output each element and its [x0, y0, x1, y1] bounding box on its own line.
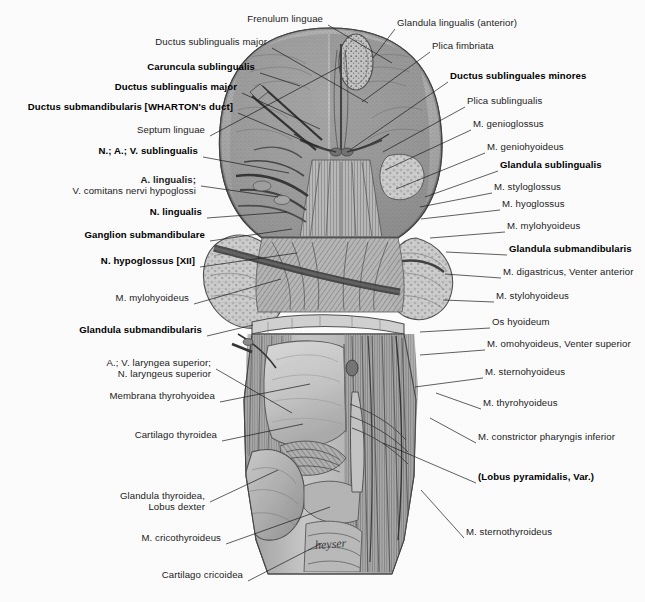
label-a-v-laryngea-n-laryngeus-superior-line-2: N. laryngeus superior: [107, 369, 211, 380]
label-glandula-thyroidea-lobus-dexter: Glandula thyroidea,Lobus dexter: [120, 491, 205, 512]
label-a-lingualis-v-comitans-line-2: V. comitans nervi hypoglossi: [73, 186, 196, 197]
label-ductus-sublinguales-minores: Ductus sublinguales minores: [450, 71, 586, 82]
label-ductus-sublingualis-major-plain: Ductus sublingualis major: [155, 37, 267, 48]
label-plica-sublingualis: Plica sublingualis: [467, 96, 542, 107]
label-glandula-lingualis-anterior: Glandula lingualis (anterior): [397, 18, 517, 29]
label-m-constrictor-pharyngis-inferior: M. constrictor pharyngis inferior: [478, 432, 615, 443]
label-m-cricothyroideus: M. cricothyroideus: [141, 533, 221, 544]
label-m-mylohyoideus-right: M. mylohyoideus: [507, 221, 580, 232]
label-m-sternohyoideus: M. sternohyoideus: [485, 367, 565, 378]
label-a-lingualis-v-comitans: A. lingualis;V. comitans nervi hypogloss…: [73, 175, 196, 196]
label-m-geniohyoideus: M. geniohyoideus: [487, 142, 564, 153]
label-a-v-laryngea-n-laryngeus-superior: A.; V. laryngea superior;N. laryngeus su…: [107, 358, 211, 379]
label-membrana-thyrohyoidea: Membrana thyrohyoidea: [110, 391, 215, 402]
label-cartilago-thyroidea: Cartilago thyroidea: [135, 430, 217, 441]
label-m-hyoglossus: M. hyoglossus: [502, 199, 565, 210]
label-lobus-pyramidalis-var: (Lobus pyramidalis, Var.): [478, 472, 594, 483]
label-glandula-thyroidea-lobus-dexter-line-2: Lobus dexter: [120, 502, 205, 513]
label-m-stylohyoideus: M. stylohyoideus: [496, 291, 569, 302]
label-glandula-submandibularis-left: Glandula submandibularis: [79, 325, 202, 336]
label-n-lingualis: N. lingualis: [150, 207, 202, 218]
label-glandula-sublingualis: Glandula sublingualis: [500, 160, 602, 171]
label-ductus-submandibularis-wharton: Ductus submandibularis [WHARTON's duct]: [28, 102, 233, 113]
label-ductus-sublingualis-major-bold: Ductus sublingualis major: [115, 82, 237, 93]
label-glandula-thyroidea-lobus-dexter-line-1: Glandula thyroidea,: [120, 491, 205, 502]
label-cartilago-cricoidea: Cartilago cricoidea: [162, 570, 243, 581]
label-septum-linguae: Septum linguae: [137, 125, 205, 136]
label-m-digastricus-venter-anterior: M. digastricus, Venter anterior: [503, 267, 633, 278]
label-a-v-laryngea-n-laryngeus-superior-line-1: A.; V. laryngea superior;: [107, 358, 211, 369]
label-ganglion-submandibulare: Ganglion submandibulare: [84, 230, 205, 241]
label-plica-fimbriata: Plica fimbriata: [432, 41, 494, 52]
label-n-hypoglossus-xii: N. hypoglossus [XII]: [101, 256, 195, 267]
anatomy-plate-page: Frenulum linguaeDuctus sublingualis majo…: [0, 0, 645, 602]
artist-signature: heyser: [315, 536, 347, 553]
label-m-sternothyroideus: M. sternothyroideus: [466, 527, 552, 538]
label-m-omohyoideus-venter-superior: M. omohyoideus, Venter superior: [487, 339, 631, 350]
label-frenulum-linguae: Frenulum linguae: [247, 14, 323, 25]
label-glandula-submandibularis-right: Glandula submandibularis: [509, 244, 632, 255]
label-m-styloglossus: M. styloglossus: [494, 182, 561, 193]
label-n-a-v-sublingualis: N.; A.; V. sublingualis: [98, 146, 198, 157]
label-m-mylohyoideus-left: M. mylohyoideus: [116, 293, 189, 304]
label-m-thyrohyoideus: M. thyrohyoideus: [483, 398, 558, 409]
label-a-lingualis-v-comitans-line-1: A. lingualis;: [73, 175, 196, 186]
label-os-hyoideum: Os hyoideum: [492, 317, 550, 328]
label-m-genioglossus: M. genioglossus: [473, 119, 544, 130]
label-caruncula-sublingualis: Caruncula sublingualis: [147, 62, 255, 73]
